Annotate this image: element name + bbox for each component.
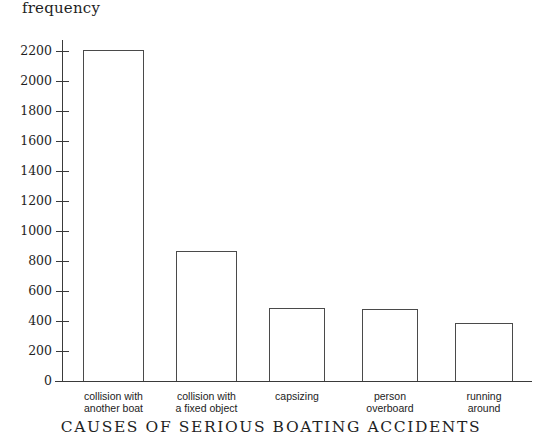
y-tick-label: 800 bbox=[4, 253, 52, 268]
y-tick-mark bbox=[56, 351, 69, 352]
y-tick-label: 1000 bbox=[4, 223, 52, 238]
y-tick-mark bbox=[56, 261, 69, 262]
y-tick-mark bbox=[56, 231, 69, 232]
y-tick-mark bbox=[56, 171, 69, 172]
bar bbox=[362, 309, 418, 381]
y-tick-label: 1200 bbox=[4, 193, 52, 208]
y-tick-label: 200 bbox=[4, 343, 52, 358]
bar bbox=[269, 308, 325, 382]
bar bbox=[455, 323, 513, 381]
x-label-line: around bbox=[429, 403, 539, 415]
y-tick-label: 1800 bbox=[4, 103, 52, 118]
x-tick-label: runningaround bbox=[429, 391, 539, 414]
y-tick-mark bbox=[56, 141, 69, 142]
y-tick-label: 2000 bbox=[4, 73, 52, 88]
y-tick-mark bbox=[56, 321, 69, 322]
bar-chart: frequency frequency 02004006008001000120… bbox=[0, 0, 542, 439]
y-tick-mark bbox=[56, 381, 69, 382]
bar bbox=[83, 50, 144, 382]
x-axis-line bbox=[55, 381, 532, 382]
y-axis-title: frequency bbox=[22, 0, 100, 17]
x-label-line: running bbox=[429, 391, 539, 403]
x-label-line: a fixed object bbox=[152, 403, 262, 415]
y-tick-label: 1600 bbox=[4, 133, 52, 148]
y-tick-label: 600 bbox=[4, 283, 52, 298]
y-tick-mark bbox=[56, 291, 69, 292]
x-axis-title: CAUSES OF SERIOUS BOATING ACCIDENTS bbox=[0, 418, 542, 436]
y-tick-mark bbox=[56, 51, 69, 52]
y-axis-line bbox=[62, 40, 63, 382]
y-tick-label: 2200 bbox=[4, 43, 52, 58]
y-tick-mark bbox=[56, 81, 69, 82]
y-tick-label: 0 bbox=[4, 373, 52, 388]
bar bbox=[176, 251, 237, 382]
y-tick-label: 1400 bbox=[4, 163, 52, 178]
y-tick-mark bbox=[56, 111, 69, 112]
y-tick-mark bbox=[56, 201, 69, 202]
y-tick-label: 400 bbox=[4, 313, 52, 328]
